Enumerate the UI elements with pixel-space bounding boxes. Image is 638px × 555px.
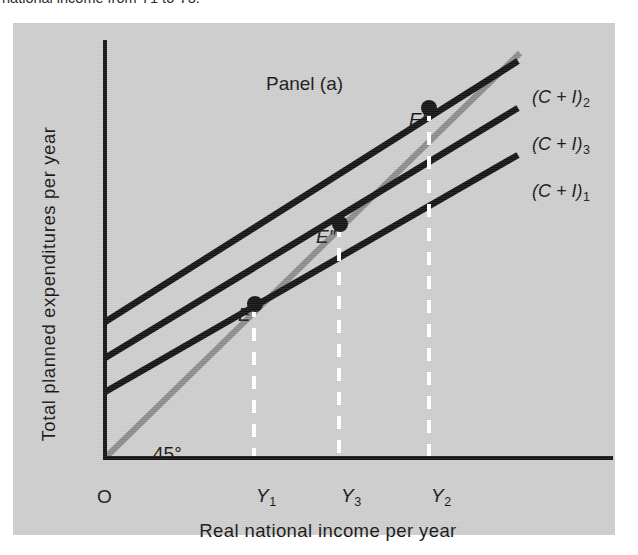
equilibrium-label-E-prime: E′	[409, 109, 425, 131]
x-axis-title: Real national income per year	[118, 520, 538, 542]
x-tick-base-y3: Y	[341, 485, 354, 506]
curve-label-ci2-sub: 2	[583, 96, 590, 110]
y-axis-title: Total planned expenditures per year	[38, 119, 60, 449]
figure-caption-strip: national income from Y1 to Y3.	[0, 0, 638, 14]
x-tick-label-y1: Y1	[256, 485, 276, 507]
caption-text: national income from Y1 to Y3.	[2, 0, 200, 5]
forty-five-degree-label: 45°	[153, 443, 182, 465]
equilibrium-label-E-double-prime: E″	[316, 226, 335, 248]
x-tick-sub-y3: 3	[354, 495, 361, 509]
x-tick-sub-y2: 2	[444, 495, 451, 509]
origin-label: O	[97, 486, 112, 508]
curve-label-ci1-sub: 1	[583, 190, 590, 204]
expenditure-curve-ci3	[105, 108, 518, 358]
x-tick-label-y3: Y3	[341, 485, 361, 507]
expenditure-income-plot	[13, 23, 615, 535]
forty-five-degree-line	[105, 53, 520, 458]
curve-label-ci1: (C + I)1	[532, 181, 589, 202]
curve-label-ci3-base: (C + I)	[532, 134, 583, 154]
curve-label-ci3: (C + I)3	[532, 134, 589, 155]
economics-figure-panel: Panel (a) Total planned expenditures per…	[13, 23, 615, 535]
curve-label-ci2-base: (C + I)	[532, 87, 583, 107]
equilibrium-label-E: E	[238, 304, 251, 326]
curve-label-ci1-base: (C + I)	[532, 181, 583, 201]
x-tick-base-y2: Y	[431, 485, 444, 506]
x-tick-base-y1: Y	[256, 485, 269, 506]
curve-label-ci2: (C + I)2	[532, 87, 589, 108]
x-tick-label-y2: Y2	[431, 485, 451, 507]
curve-label-ci3-sub: 3	[583, 143, 590, 157]
panel-title: Panel (a)	[266, 73, 343, 95]
x-tick-sub-y1: 1	[269, 495, 276, 509]
